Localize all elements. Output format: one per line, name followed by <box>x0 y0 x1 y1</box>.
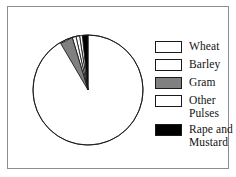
legend-item-rape-and-mustard[interactable]: Rape and Mustard <box>155 123 236 149</box>
legend-swatch-rape-and-mustard <box>155 124 182 136</box>
pie-chart-plot-area <box>32 34 144 146</box>
figure-frame: Wheat Barley Gram Other Pulses Rape and … <box>7 6 229 169</box>
chart-legend: Wheat Barley Gram Other Pulses Rape and … <box>155 40 236 152</box>
pie-chart-svg <box>32 34 144 146</box>
legend-swatch-barley <box>155 59 182 71</box>
legend-item-other-pulses[interactable]: Other Pulses <box>155 94 236 120</box>
legend-item-gram[interactable]: Gram <box>155 76 236 91</box>
legend-label-rape-and-mustard: Rape and Mustard <box>189 123 233 149</box>
legend-label-gram: Gram <box>189 76 216 89</box>
legend-item-wheat[interactable]: Wheat <box>155 40 236 55</box>
pie-chart-figure: Wheat Barley Gram Other Pulses Rape and … <box>0 0 236 177</box>
legend-swatch-gram <box>155 77 182 89</box>
legend-swatch-wheat <box>155 41 182 53</box>
legend-label-other-pulses: Other Pulses <box>189 94 219 120</box>
legend-label-barley: Barley <box>189 58 220 71</box>
legend-swatch-other-pulses <box>155 95 182 107</box>
legend-label-wheat: Wheat <box>189 40 220 53</box>
legend-item-barley[interactable]: Barley <box>155 58 236 73</box>
